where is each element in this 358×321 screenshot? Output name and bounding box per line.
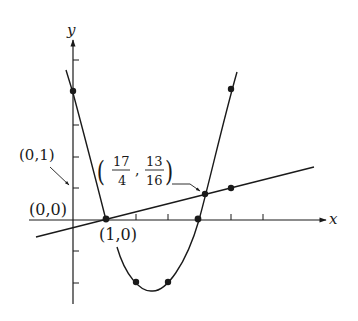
point-3-neg2 (165, 279, 171, 285)
y-intercept-arrow (50, 167, 69, 185)
point-2-neg2 (133, 279, 139, 285)
intersection-y-numerator: 13 (146, 154, 163, 169)
x-axis-label: x (329, 210, 338, 228)
point-1-0 (103, 216, 110, 223)
intersection-x-denominator: 4 (118, 173, 126, 188)
y-intercept-label: (0,1) (19, 146, 55, 164)
svg-text:(: ( (97, 155, 105, 188)
parabola-right-branch (117, 72, 237, 291)
intersection-label: ( 17 4 , 13 16 ) (97, 154, 173, 188)
intersection-y-denominator: 16 (146, 173, 163, 188)
intersection-x-numerator: 17 (113, 154, 130, 169)
svg-text:,: , (135, 162, 139, 178)
root-label: (1,0) (99, 225, 137, 244)
intersection-arrow (172, 184, 200, 191)
line-graph (36, 167, 314, 237)
point-5-1 (228, 185, 234, 191)
point-intersection (202, 191, 208, 197)
y-axis-label: y (66, 21, 76, 39)
point-5-4 (228, 86, 234, 92)
point-0-4 (70, 88, 76, 94)
point-4-0 (195, 216, 202, 223)
graph-canvas: y x (0,1) (0,0) (1,0) ( 17 4 , 13 16 ) (0, 0, 358, 321)
origin-label: (0,0) (29, 200, 67, 219)
svg-text:): ) (165, 155, 173, 188)
